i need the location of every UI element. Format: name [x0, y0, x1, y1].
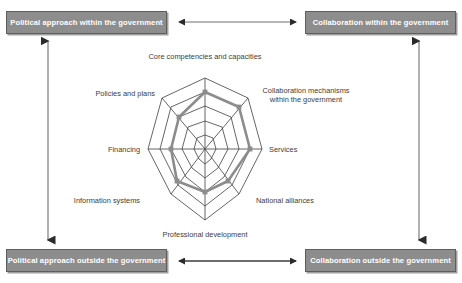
diagram-canvas: Core competencies and capacities Collabo… — [0, 0, 462, 283]
box-collaboration-within-government[interactable]: Collaboration within the government — [305, 11, 456, 34]
connector-arrows — [0, 0, 462, 283]
box-collaboration-outside-government[interactable]: Collaboration outside the government — [305, 249, 456, 272]
box-political-approach-within-government[interactable]: Political approach within the government — [6, 11, 167, 34]
box-political-approach-outside-government[interactable]: Political approach outside the governmen… — [6, 249, 167, 272]
